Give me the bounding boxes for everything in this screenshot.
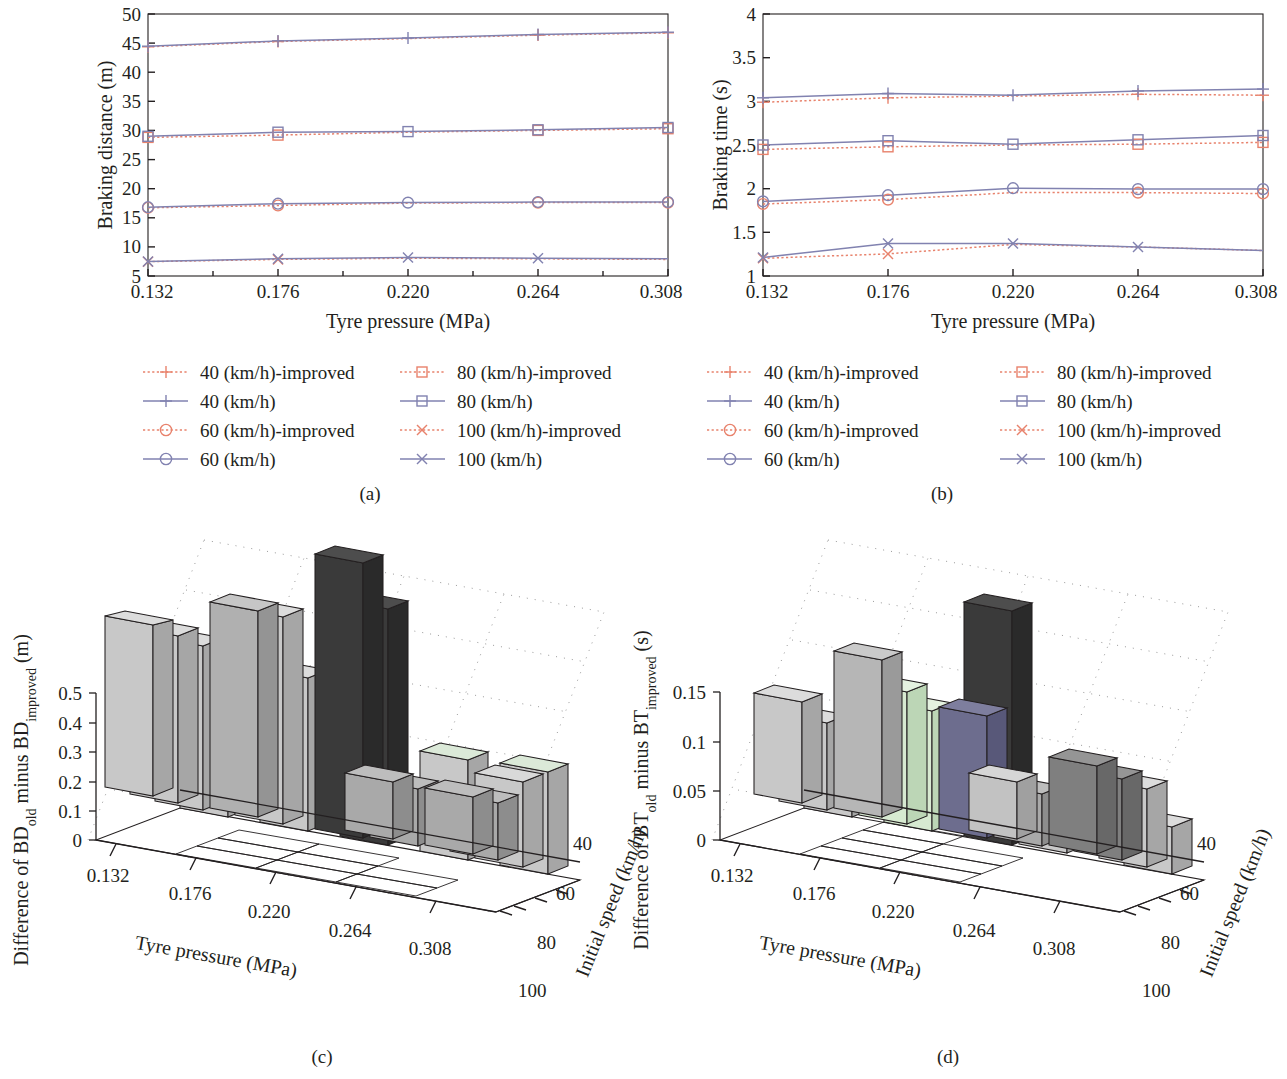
z-tick-label: 0.3 <box>58 742 82 763</box>
y-tick-label: 15 <box>122 207 141 228</box>
legend-item[interactable]: 40 (km/h)-improved <box>707 362 919 384</box>
bar-3d <box>1049 749 1117 854</box>
legend-item[interactable]: 100 (km/h) <box>1000 449 1142 471</box>
panel-d-z-axis <box>713 692 720 840</box>
y-tick-label: 80 <box>537 932 556 953</box>
plus-icon <box>724 395 736 407</box>
y-tick-label: 30 <box>122 120 141 141</box>
panel-b-y-axis-label: Braking time (s) <box>709 79 732 210</box>
plus-icon <box>724 366 736 378</box>
panel-label-a: (a) <box>359 483 380 505</box>
panel-c-z-axis <box>89 693 96 840</box>
x-tick-label: 0.132 <box>711 865 754 886</box>
z-tick-label: 0.1 <box>58 801 82 822</box>
bar-3d <box>834 643 902 817</box>
legend-item[interactable]: 40 (km/h) <box>143 391 275 413</box>
y-tick-label: 35 <box>122 91 141 112</box>
legend-item[interactable]: 80 (km/h) <box>1000 391 1132 413</box>
legend-item[interactable]: 40 (km/h) <box>707 391 839 413</box>
y-tick-label: 50 <box>122 4 141 25</box>
panel-a-y-axis-label: Braking distance (m) <box>94 61 117 230</box>
panel-a-x-ticklabels: 0.132 0.176 0.220 0.264 0.308 <box>131 281 683 302</box>
y-tick-label: 40 <box>1197 833 1216 854</box>
x-tick-label: 0.264 <box>517 281 560 302</box>
bar-3d <box>210 594 278 817</box>
legend-item[interactable]: 100 (km/h)-improved <box>400 420 622 442</box>
legend-label: 100 (km/h)-improved <box>1057 420 1222 442</box>
y-tick-label: 10 <box>122 236 141 257</box>
zlabel-pre: Difference of BD <box>10 826 32 966</box>
legend-label: 100 (km/h) <box>1057 449 1142 471</box>
z-tick-label: 0.2 <box>58 772 82 793</box>
zlabel-post: (m) <box>10 634 33 668</box>
panel-d: Difference of BTold minus BTimproved (s)… <box>630 540 1275 1001</box>
y-tick-label: 20 <box>122 178 141 199</box>
x-tick-label: 0.308 <box>1033 938 1076 959</box>
zlabel-mid: minus BD <box>10 722 32 809</box>
y-tick-label: 3 <box>747 91 757 112</box>
x-tick-label: 0.132 <box>131 281 174 302</box>
legend-item[interactable]: 60 (km/h) <box>143 449 275 471</box>
legend-item[interactable]: 80 (km/h)-improved <box>1000 362 1212 384</box>
panel-b-y-ticklabels: 1 1.5 2 2.5 3 3.5 4 <box>732 4 756 287</box>
z-tick-label: 0 <box>697 830 707 851</box>
x-tick-label: 0.132 <box>87 865 130 886</box>
plus-icon <box>160 395 172 407</box>
zlabel-sub1: old <box>24 808 39 826</box>
svg-text:Difference of BTold minus BTim: Difference of BTold minus BTimproved (s) <box>630 630 659 949</box>
x-tick-label: 0.308 <box>1235 281 1278 302</box>
zlabel-sub1: old <box>644 794 659 812</box>
bar-3d <box>969 765 1037 839</box>
z-tick-label: 0.1 <box>682 732 706 753</box>
bar-3d <box>105 611 173 796</box>
panel-a: 5 10 15 20 25 30 35 40 45 50 0.132 0.176… <box>94 4 682 334</box>
legend-item[interactable]: 80 (km/h) <box>400 391 532 413</box>
y-tick-label: 4 <box>747 4 757 25</box>
y-tick-label: 60 <box>556 883 575 904</box>
x-tick-label: 0.308 <box>640 281 683 302</box>
legend-label: 80 (km/h)-improved <box>1057 362 1212 384</box>
zlabel-post: (s) <box>630 630 653 656</box>
legend-item[interactable]: 100 (km/h)-improved <box>1000 420 1222 442</box>
z-tick-label: 0.5 <box>58 683 82 704</box>
x-tick-label: 0.264 <box>329 920 372 941</box>
panel-b: 1 1.5 2 2.5 3 3.5 4 0.132 0.176 0.220 0.… <box>709 4 1277 334</box>
panel-c: Difference of BDold minus BDimproved (m)… <box>10 540 651 1001</box>
panel-c-z-ticklabels: 0 0.1 0.2 0.3 0.4 0.5 <box>58 683 82 851</box>
panel-c-z-axis-label: Difference of BDold minus BDimproved (m) <box>10 634 39 966</box>
y-tick-label: 80 <box>1161 932 1180 953</box>
x-tick-label: 0.220 <box>872 901 915 922</box>
y-tick-label: 45 <box>122 33 141 54</box>
x-tick-label: 0.132 <box>746 281 789 302</box>
legend-item[interactable]: 60 (km/h) <box>707 449 839 471</box>
legend-item[interactable]: 80 (km/h)-improved <box>400 362 612 384</box>
legend-label: 40 (km/h)-improved <box>764 362 919 384</box>
x-tick-label: 0.176 <box>257 281 300 302</box>
legend-item[interactable]: 100 (km/h) <box>400 449 542 471</box>
x-tick-label: 0.308 <box>409 938 452 959</box>
z-tick-label: 0.4 <box>58 713 82 734</box>
x-tick-label: 0.176 <box>169 883 212 904</box>
legend-label: 100 (km/h) <box>457 449 542 471</box>
x-tick-label: 0.264 <box>1117 281 1160 302</box>
panel-d-z-ticklabels: 0 0.05 0.1 0.15 <box>673 682 706 851</box>
x-tick-label: 0.220 <box>992 281 1035 302</box>
figure-root: 5 10 15 20 25 30 35 40 45 50 0.132 0.176… <box>0 0 1287 1079</box>
y-tick-label: 100 <box>518 980 547 1001</box>
z-tick-label: 0.15 <box>673 682 706 703</box>
legend-item[interactable]: 40 (km/h)-improved <box>143 362 355 384</box>
panel-c-x-axis-label: Tyre pressure (MPa) <box>133 931 299 982</box>
figure-canvas: 5 10 15 20 25 30 35 40 45 50 0.132 0.176… <box>0 0 1287 1079</box>
legend-label: 60 (km/h)-improved <box>764 420 919 442</box>
zlabel-sub2: improved <box>644 656 659 710</box>
panel-d-x-axis-label: Tyre pressure (MPa) <box>757 931 923 982</box>
legend-item[interactable]: 60 (km/h)-improved <box>143 420 355 442</box>
legend-label: 40 (km/h) <box>764 391 839 413</box>
x-tick-label: 0.220 <box>387 281 430 302</box>
legend-label: 40 (km/h)-improved <box>200 362 355 384</box>
panel-a-plot-frame <box>148 14 668 276</box>
panel-b-x-axis-label: Tyre pressure (MPa) <box>931 310 1095 333</box>
y-tick-label: 25 <box>122 149 141 170</box>
legend-label: 80 (km/h) <box>1057 391 1132 413</box>
legend-item[interactable]: 60 (km/h)-improved <box>707 420 919 442</box>
